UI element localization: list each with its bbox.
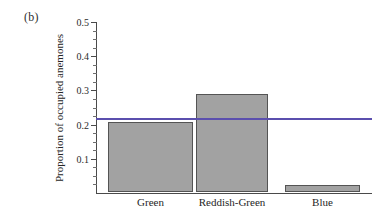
y-minor-tick: [93, 150, 97, 151]
y-minor-tick: [93, 48, 97, 49]
y-minor-tick: [93, 65, 97, 66]
y-minor-tick: [93, 73, 97, 74]
panel-label: (b): [24, 10, 39, 25]
y-minor-tick: [93, 82, 97, 83]
y-tick-label: 0.2: [77, 119, 90, 130]
y-minor-tick: [93, 167, 97, 168]
y-minor-tick: [93, 99, 97, 100]
y-tick-mark: [91, 90, 97, 91]
x-label-green: Green: [137, 196, 164, 208]
x-axis-line: [96, 193, 372, 194]
y-tick-label: 0.3: [77, 85, 90, 96]
y-tick-mark: [91, 159, 97, 160]
y-minor-tick: [93, 31, 97, 32]
x-label-reddish-green: Reddish-Green: [199, 196, 266, 208]
y-minor-tick: [93, 142, 97, 143]
x-label-blue: Blue: [312, 196, 333, 208]
bar-green: [108, 122, 193, 192]
bar-blue: [285, 185, 360, 192]
y-minor-tick: [93, 184, 97, 185]
y-tick-mark: [91, 56, 97, 57]
y-minor-tick: [93, 108, 97, 109]
y-minor-tick: [93, 176, 97, 177]
y-tick-mark: [91, 22, 97, 23]
y-minor-tick: [93, 39, 97, 40]
y-axis-title: Proportion of occupied anemones: [52, 22, 66, 194]
y-tick-label: 0.1: [77, 153, 90, 164]
y-tick-label: 0.4: [77, 51, 90, 62]
plot-area: 0.10.20.30.40.5: [96, 22, 372, 193]
figure-panel-b: (b) Proportion of occupied anemones 0.10…: [0, 0, 385, 219]
y-tick-mark: [91, 125, 97, 126]
bar-reddish-green: [196, 94, 268, 192]
y-tick-label: 0.5: [77, 17, 90, 28]
y-minor-tick: [93, 133, 97, 134]
reference-line: [96, 118, 372, 120]
